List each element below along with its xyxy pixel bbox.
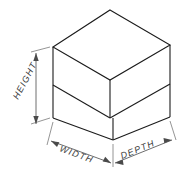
depth-label: DEPTH: [119, 138, 156, 161]
width-arrow-right: [103, 157, 111, 163]
l-shaped-block: [53, 10, 170, 140]
width-arrow-left: [51, 141, 59, 147]
depth-extension-line-right: [170, 121, 176, 140]
height-arrow-top: [33, 53, 38, 61]
height-extension-line-bottom: [31, 118, 50, 124]
width-label: WIDTH: [58, 143, 95, 164]
isometric-block-drawing: HEIGHT WIDTH DEPTH: [0, 0, 187, 179]
height-dimension: HEIGHT: [11, 47, 50, 124]
height-extension-line-top: [31, 47, 50, 52]
height-label: HEIGHT: [11, 60, 39, 101]
technical-drawing-canvas: HEIGHT WIDTH DEPTH: [0, 0, 187, 179]
